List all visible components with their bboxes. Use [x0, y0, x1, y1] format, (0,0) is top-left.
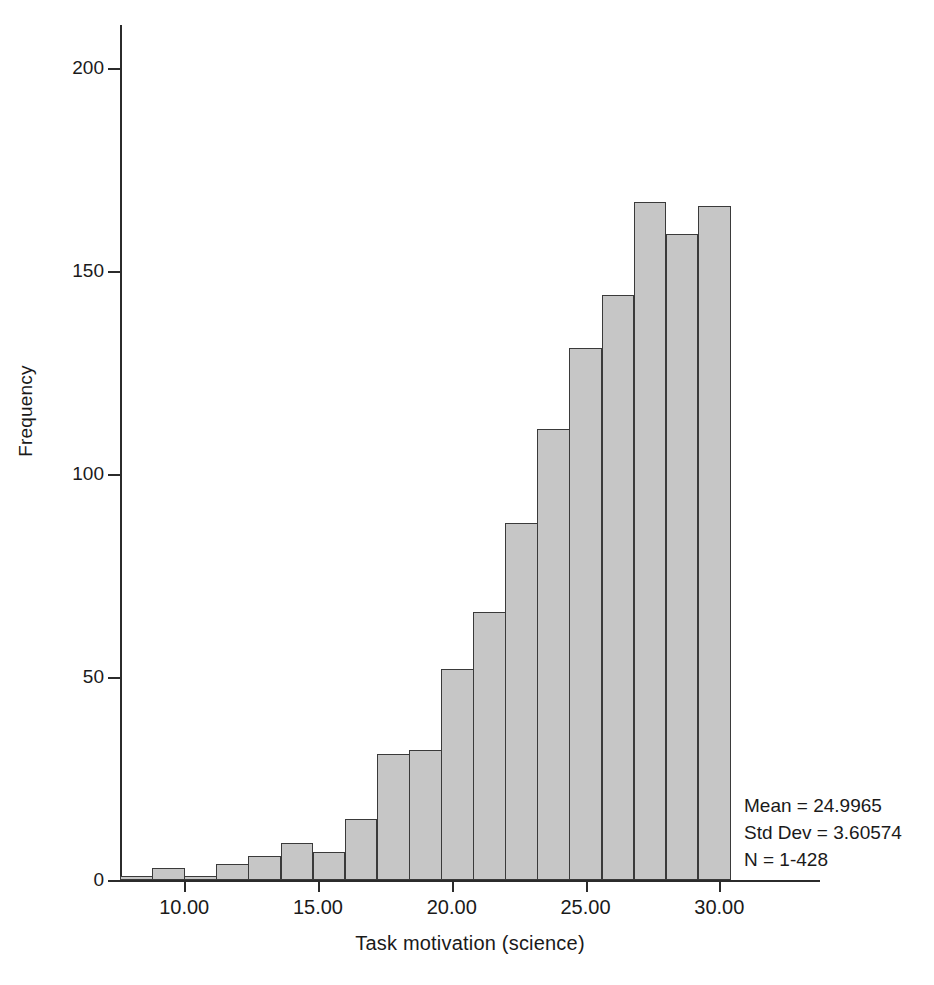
x-axis-line: [120, 880, 820, 882]
histogram-chart: Frequency 050100150200 10.0015.0020.0025…: [0, 0, 934, 985]
histogram-bar: [248, 856, 281, 880]
std-dev-text: Std Dev = 3.60574: [744, 819, 902, 846]
histogram-bar: [634, 202, 667, 880]
histogram-bar: [473, 612, 506, 880]
histogram-bar: [602, 295, 635, 880]
histogram-bar: [377, 754, 410, 880]
x-tick-mark: [318, 881, 320, 892]
x-tick-label: 15.00: [268, 896, 368, 919]
sample-size-text: N = 1-428: [744, 846, 902, 873]
x-tick-label: 25.00: [536, 896, 636, 919]
x-tick-label: 30.00: [669, 896, 769, 919]
x-tick-mark: [452, 881, 454, 892]
x-tick-mark: [184, 881, 186, 892]
mean-text: Mean = 24.9965: [744, 792, 902, 819]
x-tick-mark: [719, 881, 721, 892]
histogram-bar: [152, 868, 185, 880]
histogram-bar: [281, 843, 314, 880]
histogram-bar: [313, 852, 346, 880]
histogram-bar: [441, 669, 474, 880]
histogram-bar: [698, 206, 731, 880]
histogram-bar: [569, 348, 602, 880]
statistics-annotation: Mean = 24.9965 Std Dev = 3.60574 N = 1-4…: [744, 792, 902, 873]
histogram-bar: [537, 429, 570, 880]
x-axis-title: Task motivation (science): [120, 932, 820, 955]
histogram-bar: [216, 864, 249, 880]
histogram-bar: [345, 819, 378, 880]
x-tick-mark: [586, 881, 588, 892]
histogram-bar: [409, 750, 442, 880]
histogram-bar: [666, 234, 699, 880]
histogram-bar: [505, 523, 538, 880]
x-tick-label: 20.00: [402, 896, 502, 919]
x-tick-label: 10.00: [134, 896, 234, 919]
